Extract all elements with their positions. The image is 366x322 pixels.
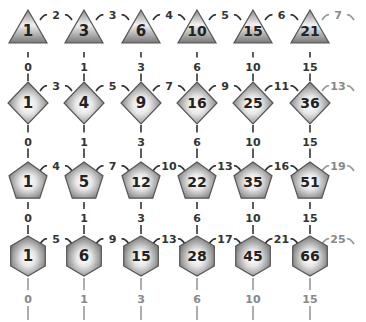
difference-label-down: 0: [24, 293, 32, 306]
node-value: 9: [136, 94, 146, 112]
horizontal-edge: [178, 86, 185, 91]
horizontal-edge: [96, 166, 104, 171]
horizontal-edge: [209, 166, 216, 171]
node-value: 16: [187, 95, 206, 111]
horizontal-edge: [178, 15, 185, 20]
difference-label-right: 11: [274, 80, 289, 93]
node-value: 12: [131, 174, 150, 190]
difference-label-down: 0: [24, 61, 32, 74]
difference-label-right: 13: [217, 160, 232, 173]
horizontal-edge: [209, 15, 216, 20]
difference-label-right: 7: [109, 160, 117, 173]
horizontal-edge: [209, 86, 216, 91]
difference-label-down: 1: [80, 61, 88, 74]
horizontal-edge: [40, 86, 47, 91]
node-value: 1: [23, 22, 33, 40]
hexagon-node: 66: [293, 236, 328, 276]
difference-label-right: 13: [161, 233, 176, 246]
horizontal-edge: [96, 86, 104, 91]
horizontal-edge: [234, 86, 241, 91]
difference-label-down: 6: [193, 293, 201, 306]
horizontal-edge: [291, 86, 299, 91]
horizontal-edge: [347, 239, 354, 244]
horizontal-edge: [347, 15, 354, 20]
node-value: 21: [300, 23, 319, 39]
horizontal-edge: [347, 166, 354, 171]
difference-label-right: 7: [334, 9, 342, 22]
difference-label-down: 3: [137, 136, 145, 149]
horizontal-edge: [265, 86, 273, 91]
hexagon-node: 45: [236, 236, 271, 276]
horizontal-edge: [265, 166, 273, 171]
node-value: 15: [131, 248, 150, 264]
node-value: 35: [243, 174, 262, 190]
difference-label-down: 15: [302, 293, 317, 306]
triangle-node: 10: [178, 10, 216, 43]
difference-label-right: 4: [52, 160, 60, 173]
difference-label-right: 19: [330, 160, 345, 173]
horizontal-edge: [322, 15, 329, 20]
difference-label-right: 6: [278, 9, 286, 22]
pentagon-node: 22: [178, 162, 216, 198]
horizontal-edge: [65, 15, 72, 20]
node-value: 6: [136, 22, 146, 40]
difference-label-right: 5: [52, 233, 60, 246]
difference-label-down: 3: [137, 61, 145, 74]
horizontal-edge: [65, 86, 72, 91]
difference-label-down: 1: [80, 212, 88, 225]
difference-label-right: 7: [165, 80, 173, 93]
horizontal-edge: [322, 166, 329, 171]
row-hexagonal: 0136101559131721251615284566: [11, 233, 354, 320]
horizontal-edge: [153, 166, 160, 171]
difference-label-right: 5: [221, 9, 229, 22]
node-value: 28: [187, 248, 206, 264]
node-value: 66: [300, 248, 319, 264]
pentagon-node: 35: [234, 162, 272, 198]
difference-label-right: 2: [52, 9, 60, 22]
node-value: 10: [187, 23, 207, 39]
difference-label-down: 6: [193, 61, 201, 74]
pentagon-node: 5: [65, 162, 103, 198]
horizontal-edge: [322, 86, 329, 91]
horizontal-edge: [234, 15, 241, 20]
node-value: 22: [187, 174, 206, 190]
difference-label-right: 3: [52, 80, 60, 93]
hexagon-node: 1: [11, 236, 46, 276]
node-value: 51: [300, 174, 319, 190]
difference-label-down: 1: [80, 293, 88, 306]
difference-label-down: 10: [245, 212, 261, 225]
node-value: 25: [243, 95, 262, 111]
horizontal-edge: [40, 166, 47, 171]
horizontal-edge: [122, 166, 130, 171]
difference-label-down: 15: [302, 136, 317, 149]
node-value: 6: [79, 247, 89, 265]
difference-label-right: 5: [109, 80, 117, 93]
node-value: 36: [300, 95, 319, 111]
horizontal-edge: [153, 15, 160, 20]
row-triangular: 01361015234567136101521: [9, 9, 354, 81]
node-value: 1: [23, 173, 33, 191]
row-pentagonal: 0136101547101316191512223551: [9, 160, 354, 234]
node-value: 1: [23, 247, 33, 265]
difference-label-down: 10: [245, 293, 261, 306]
difference-label-right: 9: [221, 80, 229, 93]
pentagon-node: 12: [122, 162, 160, 198]
horizontal-edge: [122, 15, 130, 20]
difference-label-down: 10: [245, 61, 261, 74]
horizontal-edge: [347, 86, 354, 91]
horizontal-edge: [122, 86, 130, 91]
difference-label-down: 15: [302, 61, 317, 74]
difference-label-down: 0: [24, 136, 32, 149]
difference-label-right: 10: [161, 160, 177, 173]
node-value: 1: [23, 94, 33, 112]
node-value: 3: [79, 22, 89, 40]
difference-label-right: 13: [330, 80, 345, 93]
difference-label-right: 3: [109, 9, 117, 22]
difference-label-down: 3: [137, 212, 145, 225]
horizontal-edge: [96, 15, 104, 20]
row-square: 0136101535791113149162536: [8, 80, 354, 158]
difference-label-right: 4: [165, 9, 173, 22]
node-value: 15: [243, 23, 262, 39]
triangle-node: 15: [234, 10, 272, 43]
horizontal-edge: [178, 166, 185, 171]
